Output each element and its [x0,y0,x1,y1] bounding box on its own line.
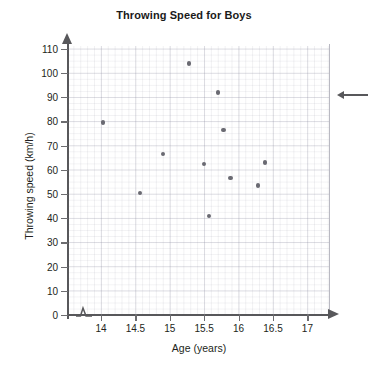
x-axis-tick [101,314,102,321]
y-axis-tick [61,242,68,243]
major-gridlines [68,46,330,315]
y-axis-tick [61,49,68,50]
y-axis-tick [61,121,68,122]
x-axis-title: Age (years) [68,342,330,354]
y-axis-tick-label: 110 [18,43,58,54]
y-axis-tick [61,146,68,147]
y-axis-tick [61,267,68,268]
y-axis-tick [61,73,68,74]
chart-title: Throwing Speed for Boys [0,9,368,21]
data-point [256,183,260,187]
data-point [228,176,232,180]
y-axis-tick-label: 100 [18,68,58,79]
x-axis-tick [204,314,205,321]
left-arrow-icon [337,94,368,96]
x-axis-arrowhead [328,309,339,319]
y-axis-line [67,42,69,319]
data-point [221,128,225,132]
chart-figure: Throwing Speed for Boys 0102030405060708… [0,0,368,368]
x-axis-tick [170,314,171,321]
y-axis-title: Throwing speed (km/h) [23,101,35,271]
data-point [263,160,267,164]
data-point [101,120,105,124]
x-axis-tick [307,314,308,321]
x-axis-line [67,314,330,316]
axis-break-icon [76,305,92,319]
x-axis-tick [135,314,136,321]
arrow-shaft [342,94,368,95]
x-axis-tick-label: 17 [287,323,327,334]
y-axis-tick [61,291,68,292]
y-axis-tick [61,170,68,171]
x-axis-tick [273,314,274,321]
data-point [187,61,191,65]
y-axis-arrowhead [62,33,72,44]
plot-right-border [329,44,330,315]
x-axis-tick [239,314,240,321]
y-axis-tick [61,218,68,219]
data-point [216,90,220,94]
y-axis-tick [61,194,68,195]
y-axis-tick-label: 0 [18,310,58,321]
y-axis-tick [61,315,68,316]
y-axis-tick-label: 10 [18,285,58,296]
y-axis-tick [61,97,68,98]
plot-area [68,46,330,315]
